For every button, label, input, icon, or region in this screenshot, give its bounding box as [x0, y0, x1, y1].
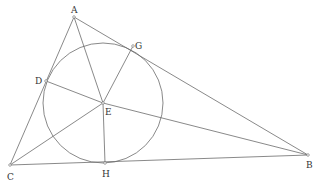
point-b — [307, 154, 310, 157]
point-e — [102, 102, 105, 105]
point-g — [132, 45, 135, 48]
labels: ABCDEGH — [7, 5, 313, 182]
segment-ab — [74, 17, 308, 155]
label-b: B — [306, 160, 313, 170]
segment-bc — [10, 155, 308, 165]
label-a: A — [70, 5, 78, 15]
segment-de — [46, 81, 103, 103]
label-g: G — [135, 41, 142, 51]
label-e: E — [105, 107, 112, 117]
label-h: H — [102, 169, 110, 179]
segment-ae — [74, 17, 103, 103]
diagram-canvas: ABCDEGH — [0, 0, 319, 188]
segment-ce — [10, 103, 103, 165]
point-d — [45, 80, 48, 83]
segment-be — [103, 103, 308, 155]
segment-ca — [10, 17, 74, 165]
label-c: C — [7, 172, 14, 182]
point-h — [104, 162, 107, 165]
label-d: D — [35, 76, 42, 86]
geometry-diagram: ABCDEGH — [0, 0, 319, 188]
point-a — [73, 16, 76, 19]
segments — [10, 17, 308, 165]
segment-ge — [103, 46, 133, 103]
point-c — [9, 164, 12, 167]
